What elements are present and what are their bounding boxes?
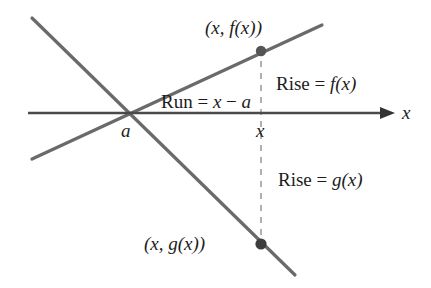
point-label-g: (x, g(x)) xyxy=(144,234,205,253)
run-equals: = xyxy=(193,91,213,112)
run-minus-sign: − xyxy=(221,91,241,112)
tick-label-x-text: x xyxy=(256,120,264,141)
rise-g-function: g xyxy=(332,169,342,190)
x-axis-label-text: x xyxy=(402,102,410,123)
run-annotation: Run = x − a xyxy=(161,92,251,111)
point-label-g-text: (x, g(x)) xyxy=(144,233,205,254)
rise-f-word: Rise xyxy=(276,73,310,94)
point-label-f: (x, f(x)) xyxy=(205,18,262,37)
rise-g-equals: = xyxy=(312,169,332,190)
rise-f-annotation: Rise = f(x) xyxy=(276,74,356,93)
tick-label-x: x xyxy=(256,121,264,140)
run-word: Run xyxy=(161,91,193,112)
point-marker-f xyxy=(256,46,266,56)
rise-g-annotation: Rise = g(x) xyxy=(278,170,363,189)
rise-f-equals: = xyxy=(310,73,330,94)
tick-label-a: a xyxy=(121,121,131,140)
figure-root: (x, f(x)) Rise = f(x) Run = x − a a x x … xyxy=(0,0,431,288)
x-axis-label: x xyxy=(402,103,410,122)
run-variable-a: a xyxy=(242,91,252,112)
diagram-canvas xyxy=(0,0,431,288)
point-label-f-text: (x, f(x)) xyxy=(205,17,262,38)
rise-g-argument: (x) xyxy=(342,169,363,190)
rise-f-argument: (x) xyxy=(335,73,356,94)
rise-g-word: Rise xyxy=(278,169,312,190)
x-axis-arrowhead xyxy=(380,107,395,119)
point-marker-g xyxy=(255,238,266,249)
tick-label-a-text: a xyxy=(121,120,131,141)
